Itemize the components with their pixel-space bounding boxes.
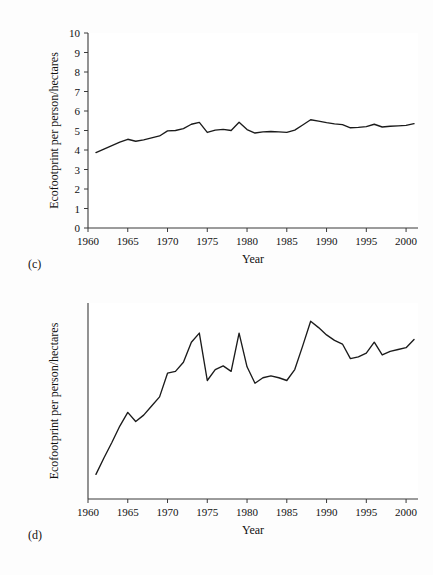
x-axis-tick-label: 1960 xyxy=(77,506,100,518)
y-axis-tick-label: 5 xyxy=(75,125,81,137)
x-axis-title: Year xyxy=(242,523,264,537)
y-axis-tick-label: 2 xyxy=(75,183,81,195)
chart-panel-c: 0123456789101960196519701975198019851990… xyxy=(0,0,433,288)
x-axis-tick-label: 1990 xyxy=(316,235,339,247)
y-axis-tick-label: 0 xyxy=(75,222,81,234)
y-axis-tick-label: 4 xyxy=(75,144,81,156)
ecofootprint-line-chart-d: 196019651970197519801985199019952000Year… xyxy=(0,288,433,575)
y-axis-tick-label: 8 xyxy=(75,66,81,78)
x-axis-tick-label: 1980 xyxy=(236,235,259,247)
x-axis-tick-label: 1970 xyxy=(157,235,180,247)
x-axis-tick-label: 1995 xyxy=(355,506,378,518)
x-axis-tick-label: 1970 xyxy=(157,506,180,518)
x-axis-tick-label: 1995 xyxy=(355,235,378,247)
x-axis-tick-label: 1985 xyxy=(276,235,299,247)
x-axis-tick-label: 2000 xyxy=(395,235,418,247)
y-axis-title: Ecofootprint per person/hectares xyxy=(47,52,61,209)
x-axis-tick-label: 1960 xyxy=(77,235,100,247)
y-axis-tick-label: 6 xyxy=(75,105,81,117)
y-axis-tick-label: 9 xyxy=(75,47,81,59)
x-axis-tick-label: 1990 xyxy=(316,506,339,518)
y-axis-tick-label: 3 xyxy=(75,164,81,176)
plot-area-background xyxy=(88,33,418,228)
x-axis-tick-label: 2000 xyxy=(395,506,418,518)
x-axis-tick-label: 1980 xyxy=(236,506,259,518)
panel-label-c: (c) xyxy=(28,257,41,272)
y-axis-title: Ecofootprint per person/hectares xyxy=(47,322,61,479)
ecofootprint-line-chart-c: 0123456789101960196519701975198019851990… xyxy=(0,0,433,288)
x-axis-tick-label: 1975 xyxy=(196,506,219,518)
x-axis-tick-label: 1965 xyxy=(117,235,140,247)
x-axis-title: Year xyxy=(242,252,264,266)
y-axis-tick-label: 10 xyxy=(69,27,81,39)
x-axis-tick-label: 1965 xyxy=(117,506,140,518)
x-axis-tick-label: 1985 xyxy=(276,506,299,518)
chart-panel-d: 196019651970197519801985199019952000Year… xyxy=(0,288,433,575)
x-axis-tick-label: 1975 xyxy=(196,235,219,247)
plot-area-background xyxy=(88,303,418,499)
y-axis-tick-label: 1 xyxy=(75,203,81,215)
y-axis-tick-label: 7 xyxy=(75,86,81,98)
figure-page: 0123456789101960196519701975198019851990… xyxy=(0,0,433,575)
panel-label-d: (d) xyxy=(28,528,42,543)
